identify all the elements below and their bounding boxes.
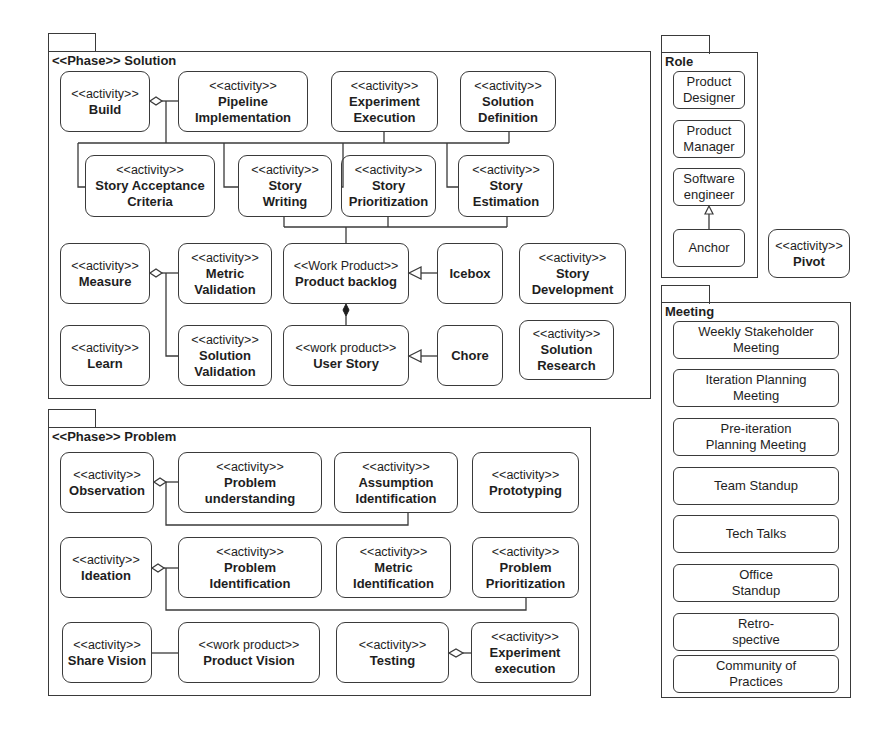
stereotype-label: <<activity>>	[209, 78, 276, 94]
node-solution-validation[interactable]: <<activity>> Solution Validation	[178, 325, 272, 386]
meeting-iteration-planning[interactable]: Iteration Planning Meeting	[673, 369, 839, 407]
node-name: Problem Prioritization	[478, 560, 573, 592]
stereotype-label: <<activity>>	[360, 544, 427, 560]
role-product-designer[interactable]: Product Designer	[673, 71, 745, 109]
meeting-team-standup[interactable]: Team Standup	[673, 467, 839, 505]
node-ideation[interactable]: <<activity>> Ideation	[60, 537, 152, 598]
node-story-development[interactable]: <<activity>> Story Development	[519, 243, 626, 304]
node-story-estimation[interactable]: <<activity>> Story Estimation	[458, 155, 554, 217]
node-learn[interactable]: <<activity>> Learn	[60, 325, 150, 386]
stereotype-label: <<activity>>	[73, 467, 140, 483]
role-anchor[interactable]: Anchor	[673, 229, 745, 267]
stereotype-label: <<activity>>	[355, 162, 422, 178]
node-prototyping[interactable]: <<activity>> Prototyping	[472, 452, 579, 513]
node-name: Metric Validation	[190, 266, 260, 298]
node-pivot[interactable]: <<activity>> Pivot	[768, 229, 850, 278]
node-name: Story Acceptance Criteria	[88, 178, 213, 210]
stereotype-label: <<activity>>	[73, 637, 140, 653]
role-label: Software engineer	[678, 171, 740, 203]
node-story-acceptance-criteria[interactable]: <<activity>> Story Acceptance Criteria	[85, 155, 215, 217]
node-problem-identification[interactable]: <<activity>> Problem Identification	[178, 537, 322, 598]
node-name: Experiment execution	[480, 645, 570, 677]
meeting-pre-iteration-planning[interactable]: Pre-iteration Planning Meeting	[673, 418, 839, 456]
problem-package-tab	[48, 409, 96, 428]
node-experiment-execution-problem[interactable]: <<activity>> Experiment execution	[471, 622, 579, 683]
node-name: Icebox	[449, 266, 490, 282]
node-product-backlog[interactable]: <<Work Product>> Product backlog	[283, 243, 409, 304]
stereotype-label: <<activity>>	[71, 258, 138, 274]
stereotype-label: <<activity>>	[539, 250, 606, 266]
node-product-vision[interactable]: <<work product>> Product Vision	[178, 622, 320, 683]
node-name: Ideation	[81, 568, 131, 584]
node-metric-identification[interactable]: <<activity>> Metric Identification	[336, 537, 451, 598]
meeting-label: Iteration Planning Meeting	[696, 372, 816, 404]
node-name: Metric Identification	[346, 560, 441, 592]
node-solution-definition[interactable]: <<activity>> Solution Definition	[460, 71, 556, 132]
stereotype-label: <<work product>>	[199, 637, 300, 653]
node-name: Problem Identification	[200, 560, 300, 592]
node-story-prioritization[interactable]: <<activity>> Story Prioritization	[341, 155, 436, 217]
meeting-retrospective[interactable]: Retro-spective	[673, 613, 839, 651]
meeting-community-of-practices[interactable]: Community of Practices	[673, 655, 839, 693]
stereotype-label: <<activity>>	[191, 332, 258, 348]
stereotype-label: <<activity>>	[492, 544, 559, 560]
node-experiment-execution[interactable]: <<activity>> Experiment Execution	[331, 71, 438, 132]
role-label: Product Manager	[678, 123, 740, 155]
stereotype-label: <<activity>>	[359, 637, 426, 653]
meeting-office-standup[interactable]: Office Standup	[673, 564, 839, 602]
node-name: Story Estimation	[466, 178, 546, 210]
role-label: Anchor	[688, 240, 729, 256]
meeting-label: Team Standup	[714, 478, 798, 494]
meeting-tech-talks[interactable]: Tech Talks	[673, 515, 839, 553]
node-name: Share Vision	[68, 653, 147, 669]
node-problem-understanding[interactable]: <<activity>> Problem understanding	[178, 452, 322, 513]
meeting-label: Tech Talks	[726, 526, 786, 542]
solution-package-tab	[48, 33, 96, 52]
role-software-engineer[interactable]: Software engineer	[673, 168, 745, 206]
node-problem-prioritization[interactable]: <<activity>> Problem Prioritization	[472, 537, 579, 598]
stereotype-label: <<activity>>	[351, 78, 418, 94]
node-name: Assumption Identification	[346, 475, 446, 507]
role-product-manager[interactable]: Product Manager	[673, 120, 745, 158]
node-testing[interactable]: <<activity>> Testing	[336, 622, 449, 683]
node-share-vision[interactable]: <<activity>> Share Vision	[62, 622, 152, 683]
meeting-label: Pre-iteration Planning Meeting	[696, 421, 816, 453]
meeting-label: Weekly Stakeholder Meeting	[691, 324, 821, 356]
stereotype-label: <<activity>>	[492, 467, 559, 483]
node-name: Story Development	[525, 266, 620, 298]
node-observation[interactable]: <<activity>> Observation	[60, 452, 154, 513]
stereotype-label: <<activity>>	[71, 340, 138, 356]
stereotype-label: <<activity>>	[362, 459, 429, 475]
node-name: Chore	[451, 348, 489, 364]
stereotype-label: <<activity>>	[251, 162, 318, 178]
meeting-label: Community of Practices	[711, 658, 801, 690]
solution-package-title: <<Phase>> Solution	[52, 53, 176, 68]
stereotype-label: <<activity>>	[491, 629, 558, 645]
stereotype-label: <<activity>>	[474, 78, 541, 94]
node-name: Pipeline Implementation	[188, 94, 298, 126]
node-icebox[interactable]: Icebox	[437, 243, 503, 304]
node-metric-validation[interactable]: <<activity>> Metric Validation	[178, 243, 272, 304]
node-name: Pivot	[793, 254, 825, 270]
stereotype-label: <<activity>>	[775, 238, 842, 254]
stereotype-label: <<activity>>	[116, 162, 183, 178]
meeting-package-title: Meeting	[665, 304, 714, 319]
node-assumption-identification[interactable]: <<activity>> Assumption Identification	[334, 452, 458, 513]
node-chore[interactable]: Chore	[437, 325, 503, 386]
node-measure[interactable]: <<activity>> Measure	[60, 243, 150, 304]
node-name: Product backlog	[295, 274, 397, 290]
stereotype-label: <<activity>>	[191, 250, 258, 266]
role-package-title: Role	[665, 54, 693, 69]
problem-package-title: <<Phase>> Problem	[52, 429, 176, 444]
node-user-story[interactable]: <<work product>> User Story	[283, 325, 409, 386]
stereotype-label: <<activity>>	[72, 552, 139, 568]
node-build[interactable]: <<activity>> Build	[60, 71, 150, 132]
node-name: Story Prioritization	[346, 178, 431, 210]
node-name: Solution Validation	[190, 348, 260, 380]
node-name: Experiment Execution	[340, 94, 430, 126]
node-story-writing[interactable]: <<activity>> Story Writing	[238, 155, 332, 217]
node-solution-research[interactable]: <<activity>> Solution Research	[519, 320, 614, 380]
node-name: Solution Definition	[473, 94, 543, 126]
node-pipeline-implementation[interactable]: <<activity>> Pipeline Implementation	[178, 71, 308, 132]
meeting-weekly-stakeholder[interactable]: Weekly Stakeholder Meeting	[673, 321, 839, 359]
